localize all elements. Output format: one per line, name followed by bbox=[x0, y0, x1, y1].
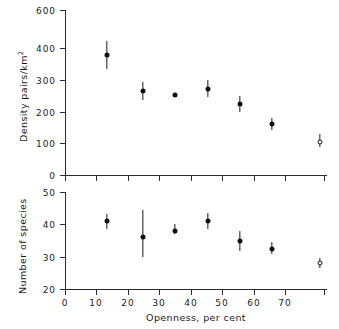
y-ticklabel-species-30: 30 bbox=[24, 254, 56, 263]
x-axis-line-species bbox=[65, 289, 327, 290]
y-ticklabel-density-100: 100 bbox=[24, 140, 56, 149]
x-tick-density-40 bbox=[191, 176, 192, 181]
data-point-density-4 bbox=[206, 87, 211, 92]
x-tick-density-10 bbox=[96, 176, 97, 181]
y-ticklabel-density-600: 600 bbox=[24, 7, 56, 16]
y-axis-title-density-text: Density pairs/km bbox=[18, 55, 29, 142]
data-point-density-7 bbox=[318, 140, 323, 145]
data-point-species-1 bbox=[105, 219, 110, 224]
data-point-density-6 bbox=[270, 122, 275, 127]
y-ticklabel-species-40: 40 bbox=[24, 221, 56, 230]
y-tick-species-40 bbox=[60, 224, 65, 225]
data-point-species-3 bbox=[173, 229, 178, 234]
y-tick-density-600 bbox=[60, 10, 65, 11]
x-tick-species-20 bbox=[128, 290, 129, 295]
chart-panel-species: Number of species 50 40 30 20 0 10 20 30… bbox=[0, 182, 339, 329]
y-ticklabel-density-400: 400 bbox=[24, 45, 56, 54]
data-point-species-5 bbox=[238, 239, 243, 244]
y-axis-line-species bbox=[65, 192, 66, 290]
data-point-species-2 bbox=[141, 235, 146, 240]
x-tick-species-40 bbox=[191, 290, 192, 295]
y-ticklabel-species-50: 50 bbox=[24, 189, 56, 198]
y-axis-title-density: Density pairs/km2 bbox=[18, 51, 29, 142]
x-tick-species-60 bbox=[254, 290, 255, 295]
y-axis-title-species-text: Number of species bbox=[17, 198, 28, 294]
x-tick-density-20 bbox=[128, 176, 129, 181]
data-point-density-2 bbox=[141, 89, 146, 94]
data-point-species-7 bbox=[318, 261, 323, 266]
x-ticklabel-species-10: 10 bbox=[83, 299, 109, 308]
y-tick-density-100 bbox=[60, 143, 65, 144]
x-tick-density-0 bbox=[65, 176, 66, 181]
data-point-species-4 bbox=[206, 219, 211, 224]
x-ticklabel-species-0: 0 bbox=[52, 299, 78, 308]
x-tick-density-30 bbox=[159, 176, 160, 181]
y-axis-title-species: Number of species bbox=[18, 198, 28, 294]
x-tick-density-70 bbox=[285, 176, 286, 181]
data-point-density-3 bbox=[173, 93, 178, 98]
x-ticklabel-species-20: 20 bbox=[115, 299, 141, 308]
x-tick-density-60 bbox=[254, 176, 255, 181]
x-axis-line-density bbox=[65, 175, 327, 176]
data-point-species-6 bbox=[270, 247, 275, 252]
x-tick-density-end bbox=[324, 176, 325, 181]
x-ticklabel-species-30: 30 bbox=[146, 299, 172, 308]
y-tick-species-30 bbox=[60, 257, 65, 258]
x-ticklabel-species-40: 40 bbox=[178, 299, 204, 308]
y-tick-density-200 bbox=[60, 112, 65, 113]
data-point-density-1 bbox=[105, 53, 110, 58]
y-tick-species-50 bbox=[60, 192, 65, 193]
x-ticklabel-species-60: 60 bbox=[241, 299, 267, 308]
x-tick-species-end bbox=[324, 290, 325, 295]
x-ticklabel-species-70: 70 bbox=[272, 299, 298, 308]
y-ticklabel-species-20: 20 bbox=[24, 286, 56, 295]
y-ticklabel-density-0: 0 bbox=[24, 172, 56, 181]
y-ticklabel-density-200: 200 bbox=[24, 109, 56, 118]
x-axis-title-openness: Openness, per cent bbox=[146, 313, 246, 323]
y-tick-density-400 bbox=[60, 48, 65, 49]
chart-panel-density: Density pairs/km2 600 400 300 200 100 0 bbox=[0, 0, 339, 182]
figure-container: Density pairs/km2 600 400 300 200 100 0 bbox=[0, 0, 339, 329]
x-tick-species-10 bbox=[96, 290, 97, 295]
y-tick-density-300 bbox=[60, 80, 65, 81]
x-tick-species-0 bbox=[65, 290, 66, 295]
x-ticklabel-species-50: 50 bbox=[209, 299, 235, 308]
y-ticklabel-density-300: 300 bbox=[24, 77, 56, 86]
y-axis-line-density bbox=[65, 10, 66, 176]
data-point-density-5 bbox=[238, 102, 243, 107]
error-bar-species-2 bbox=[142, 210, 143, 257]
x-tick-species-70 bbox=[285, 290, 286, 295]
x-tick-density-50 bbox=[222, 176, 223, 181]
x-tick-species-30 bbox=[159, 290, 160, 295]
x-tick-species-50 bbox=[222, 290, 223, 295]
